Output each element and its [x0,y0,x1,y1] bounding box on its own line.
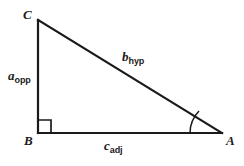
vertex-label-c: C [23,8,32,21]
figure-canvas: C B A aopp bhyp cadj [0,0,244,166]
side-label-a-opposite: aopp [8,69,31,85]
side-label-b-hypotenuse: bhyp [122,50,144,66]
side-label-b-subscript: hyp [129,56,145,66]
side-label-c-adjacent: cadj [104,139,123,155]
right-angle-marker-icon [38,120,51,133]
vertex-label-a: A [226,134,235,147]
vertex-label-b: B [24,134,33,147]
side-label-a-subscript: opp [15,75,31,85]
side-label-c-subscript: adj [110,145,123,155]
